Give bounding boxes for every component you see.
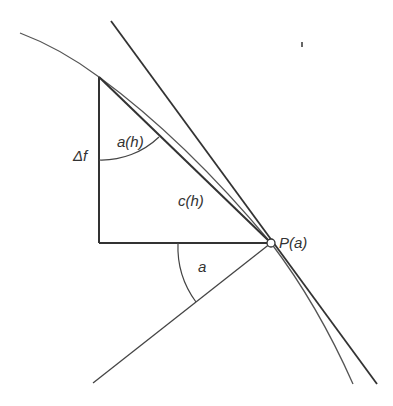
angle-arc-a [178, 243, 196, 302]
label-angle-h: a(h) [117, 133, 144, 150]
label-angle-a: a [198, 258, 206, 275]
label-delta-f: Δf [72, 147, 89, 164]
diagram-canvas: Δf a(h) c(h) P(a) a [0, 0, 393, 406]
chord-line [99, 77, 271, 243]
label-point: P(a) [279, 234, 307, 251]
lower-line [93, 243, 271, 383]
label-chord: c(h) [178, 192, 204, 209]
point-marker [267, 239, 275, 247]
tangent-line [111, 21, 377, 384]
